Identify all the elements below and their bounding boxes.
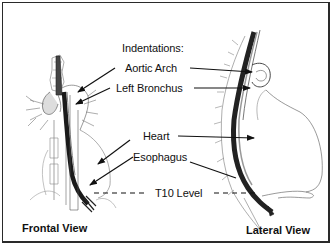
arrow-esophagus-frontal xyxy=(90,157,133,185)
label-heart: Heart xyxy=(143,130,169,142)
line-esophagus-lateral xyxy=(190,162,236,178)
label-esophagus: Esophagus xyxy=(133,151,187,163)
arrow-heart-frontal xyxy=(98,140,130,164)
label-indentations: Indentations: xyxy=(122,42,184,54)
label-t10-level: T10 Level xyxy=(155,187,202,199)
label-frontal-view: Frontal View xyxy=(22,222,87,234)
lateral-view-drawing xyxy=(214,30,322,232)
label-lateral-view: Lateral View xyxy=(246,224,310,236)
arrow-heart-lateral xyxy=(178,136,254,138)
anatomy-illustration xyxy=(0,0,334,246)
label-left-bronchus: Left Bronchus xyxy=(116,82,183,94)
label-aortic-arch: Aortic Arch xyxy=(125,62,177,74)
frontal-view-drawing xyxy=(26,55,116,212)
